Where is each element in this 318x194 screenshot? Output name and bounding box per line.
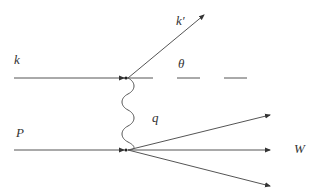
label-P: P xyxy=(15,125,24,140)
feynman-diagram: k k′ θ q P W xyxy=(0,0,318,194)
label-W: W xyxy=(294,141,306,156)
hadronic-jets xyxy=(128,115,270,186)
outgoing-lepton-line xyxy=(128,15,204,78)
upper-vertex xyxy=(124,76,127,79)
photon-propagator xyxy=(122,78,134,150)
lower-vertex xyxy=(124,148,127,151)
label-q: q xyxy=(152,110,159,125)
label-k-prime: k′ xyxy=(176,13,185,28)
label-k: k xyxy=(14,52,20,67)
label-theta: θ xyxy=(178,56,185,71)
